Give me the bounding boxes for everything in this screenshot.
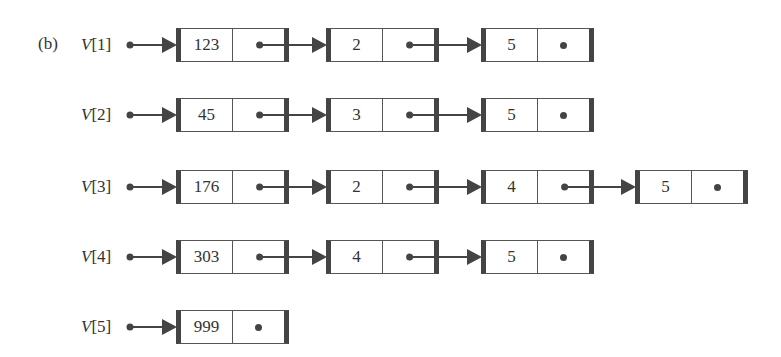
arrowhead-icon xyxy=(162,107,177,123)
arrowhead-icon xyxy=(162,249,177,265)
arrowhead-icon xyxy=(621,179,636,195)
arrowhead-icon xyxy=(312,179,327,195)
arrowhead-icon xyxy=(162,37,177,53)
arrowhead-icon xyxy=(467,107,482,123)
arrowhead-icon xyxy=(162,319,177,335)
arrowhead-icon xyxy=(467,37,482,53)
arrowhead-icon xyxy=(467,249,482,265)
arrowhead-icon xyxy=(312,107,327,123)
arrowhead-icon xyxy=(467,179,482,195)
arrowhead-icon xyxy=(312,37,327,53)
arrowhead-icon xyxy=(312,249,327,265)
arrows-layer xyxy=(0,0,781,357)
arrowhead-icon xyxy=(162,179,177,195)
